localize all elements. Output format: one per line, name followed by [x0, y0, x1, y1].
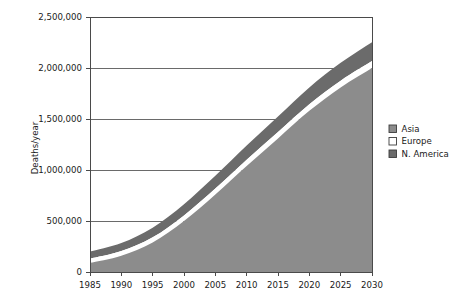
legend-label-europe: Europe: [402, 136, 432, 146]
x-tick-marks: [90, 272, 372, 276]
x-tick-label-3: 2000: [173, 280, 195, 290]
y-tick-label-2: 1,000,000: [38, 165, 82, 175]
y-tick-label-1: 500,000: [46, 216, 82, 226]
x-tick-labels: 1985199019952000200520102015202020252030: [79, 280, 383, 290]
legend: AsiaEuropeN. America: [389, 124, 449, 159]
x-tick-label-9: 2030: [361, 280, 383, 290]
x-tick-label-4: 2005: [204, 280, 226, 290]
legend-label-asia: Asia: [402, 124, 420, 134]
x-tick-label-5: 2010: [236, 280, 258, 290]
area-bands: [90, 42, 372, 272]
y-tick-label-4: 2,000,000: [38, 63, 82, 73]
x-tick-label-1: 1990: [110, 280, 132, 290]
x-tick-label-0: 1985: [79, 280, 101, 290]
x-tick-label-6: 2015: [267, 280, 289, 290]
legend-swatch-asia: [389, 125, 397, 133]
legend-swatch-n-america: [389, 150, 397, 158]
x-tick-label-8: 2025: [330, 280, 352, 290]
y-axis-title: Deaths/year: [30, 121, 40, 174]
legend-label-n-america: N. America: [402, 149, 449, 159]
y-tick-label-0: 0: [77, 267, 82, 277]
y-tick-marks: [86, 17, 90, 272]
chart-page: 0500,0001,000,0001,500,0002,000,0002,500…: [0, 0, 475, 302]
x-tick-label-7: 2020: [298, 280, 320, 290]
stacked-area-chart: 0500,0001,000,0001,500,0002,000,0002,500…: [0, 0, 475, 302]
y-tick-label-5: 2,500,000: [38, 12, 82, 22]
y-tick-label-3: 1,500,000: [38, 114, 82, 124]
legend-swatch-europe: [389, 138, 397, 146]
y-axis-title-group: Deaths/year: [30, 121, 40, 174]
y-tick-labels: 0500,0001,000,0001,500,0002,000,0002,500…: [38, 12, 82, 277]
x-tick-label-2: 1995: [142, 280, 164, 290]
